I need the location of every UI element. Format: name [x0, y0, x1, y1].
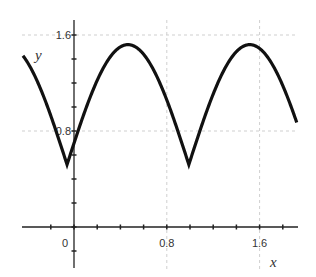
y-tick-label: 1.6	[56, 29, 71, 41]
x-tick-label: 0	[62, 237, 68, 249]
tick-labels: 00.81.60.81.6	[56, 29, 268, 249]
axes	[22, 20, 298, 268]
y-axis-label: y	[33, 47, 42, 63]
line-chart: 00.81.60.81.6 x y	[0, 0, 316, 277]
data-line	[23, 45, 297, 165]
x-tick-label: 1.6	[252, 237, 267, 249]
x-tick-label: 0.8	[159, 237, 174, 249]
x-axis-label: x	[269, 254, 277, 270]
grid-lines	[22, 20, 298, 272]
